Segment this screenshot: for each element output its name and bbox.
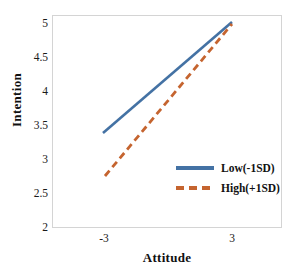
x-tick-3: 3 <box>212 232 252 244</box>
legend-swatch-solid-icon <box>176 166 214 170</box>
y-axis-tick-labels: 5 4.5 4 3.5 3 2.5 2 <box>14 0 48 272</box>
chart-legend: Low(-1SD) High(+1SD) <box>176 158 280 198</box>
y-tick-4: 4 <box>14 86 48 97</box>
legend-item-high[interactable]: High(+1SD) <box>176 178 280 198</box>
series-line-low <box>103 22 232 133</box>
legend-label-low: Low(-1SD) <box>221 162 275 174</box>
y-tick-3-5: 3.5 <box>14 120 48 131</box>
series-line-high <box>105 24 232 176</box>
y-tick-5: 5 <box>14 18 48 29</box>
y-tick-2: 2 <box>14 222 48 233</box>
y-tick-3: 3 <box>14 154 48 165</box>
x-tick-neg3: -3 <box>84 232 124 244</box>
y-tick-4-5: 4.5 <box>14 52 48 63</box>
legend-swatch-dashed-icon <box>176 186 214 190</box>
y-tick-2-5: 2.5 <box>14 188 48 199</box>
interaction-plot-chart: Intention 5 4.5 4 3.5 3 2.5 2 -3 3 Attit… <box>0 0 302 272</box>
legend-item-low[interactable]: Low(-1SD) <box>176 158 280 178</box>
x-axis-title: Attitude <box>52 250 282 266</box>
legend-label-high: High(+1SD) <box>221 182 280 194</box>
